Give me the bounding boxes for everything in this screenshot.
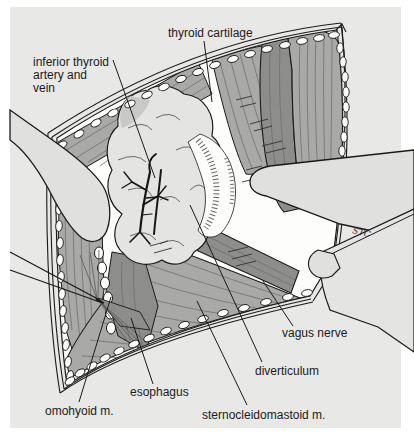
label-esophagus: esophagus [130,385,189,399]
label-diverticulum: diverticulum [255,364,319,378]
label-inferior-thyroid-line2: artery and [33,68,87,82]
label-vagus-nerve: vagus nerve [282,326,348,340]
figure-page: thyroid cartilage inferior thyroid arter… [0,0,414,443]
label-thyroid-cartilage: thyroid cartilage [168,26,253,40]
surgical-illustration: thyroid cartilage inferior thyroid arter… [0,0,414,443]
label-sternocleidomastoid: sternocleidomastoid m. [202,408,325,422]
label-inferior-thyroid-line1: inferior thyroid [33,55,109,69]
label-inferior-thyroid-line3: vein [33,81,55,95]
label-omohyoid: omohyoid m. [45,404,114,418]
